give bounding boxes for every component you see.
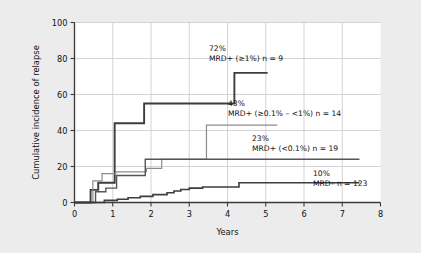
annotation-label-1: MRD+ (≥0.1% – <1%) n = 14 — [228, 109, 341, 118]
x-axis-title: Years — [215, 227, 238, 237]
figure-container: 020406080100 012345678 Cumulative incide… — [0, 0, 421, 253]
x-tick-label-4: 4 — [225, 209, 230, 219]
y-tick-label-100: 100 — [52, 18, 68, 28]
y-tick-label-60: 60 — [57, 90, 67, 100]
x-tick-label-1: 1 — [110, 209, 115, 219]
x-axis — [75, 203, 381, 207]
x-tick-label-6: 6 — [301, 209, 306, 219]
x-tick-label-8: 8 — [378, 209, 383, 219]
y-axis-title: Cumulative incidence of relapse — [31, 45, 41, 180]
x-tick-label-5: 5 — [263, 209, 268, 219]
x-tick-label-0: 0 — [72, 209, 77, 219]
y-tick-label-80: 80 — [57, 54, 67, 64]
annotation-percent-3: 10% — [313, 169, 330, 178]
y-tick-label-0: 0 — [62, 198, 67, 208]
cumulative-incidence-relapse-chart: 020406080100 012345678 Cumulative incide… — [0, 0, 421, 253]
annotation-percent-0: 72% — [209, 44, 226, 53]
annotation-label-2: MRD+ (<0.1%) n = 19 — [252, 144, 338, 153]
x-tick-labels: 012345678 — [72, 209, 383, 219]
annotation-label-3: MRD– n = 123 — [313, 179, 368, 188]
annotation-label-0: MRD+ (≥1%) n = 9 — [209, 54, 283, 63]
x-tick-label-7: 7 — [340, 209, 345, 219]
y-tick-labels: 020406080100 — [52, 18, 68, 208]
y-tick-label-40: 40 — [57, 126, 67, 136]
annotation-percent-1: 43% — [228, 99, 245, 108]
x-tick-label-3: 3 — [187, 209, 192, 219]
annotation-percent-2: 23% — [252, 134, 269, 143]
x-tick-label-2: 2 — [148, 209, 153, 219]
y-tick-label-20: 20 — [57, 162, 67, 172]
y-axis — [71, 23, 75, 203]
